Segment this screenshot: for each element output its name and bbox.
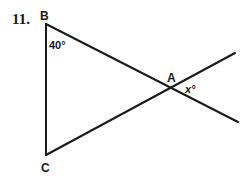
- angle-label-a: x°: [185, 84, 196, 95]
- line-through-b-and-a: [46, 24, 238, 122]
- vertex-label-c: C: [41, 162, 50, 174]
- vertex-label-b: B: [40, 10, 49, 22]
- vertex-label-a: A: [167, 72, 176, 84]
- angle-label-b: 40°: [49, 40, 66, 51]
- geometry-diagram: [0, 0, 251, 181]
- line-through-c-and-a: [46, 53, 235, 155]
- problem-number: 11.: [12, 12, 30, 27]
